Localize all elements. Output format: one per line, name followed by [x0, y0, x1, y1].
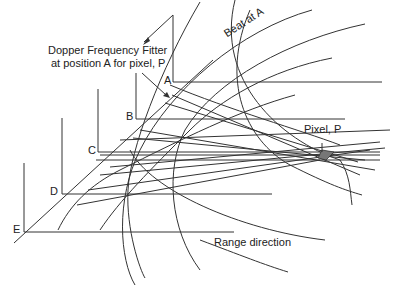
- position-label-d: D: [50, 186, 58, 197]
- pixel-label: Pixel, P: [304, 124, 341, 135]
- position-a-lines: [144, 15, 382, 82]
- range-direction-label: Range direction: [214, 237, 291, 248]
- position-label-e: E: [13, 224, 20, 235]
- position-label-a: A: [164, 75, 171, 86]
- filter-label-line1: Dopper Frequency Fitter: [48, 45, 167, 56]
- position-d-lines: [62, 118, 272, 194]
- filter-label-line2: at position A for pixel, P: [51, 58, 165, 69]
- position-label-b: B: [126, 111, 133, 122]
- position-label-c: C: [88, 145, 96, 156]
